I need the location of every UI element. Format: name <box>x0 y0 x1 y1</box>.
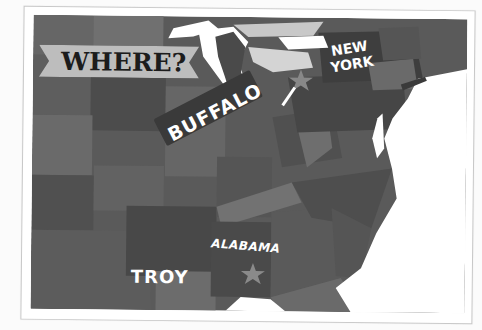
map-card: WHERE? BUFFALO NEW YORK ALABAMA TROY <box>20 6 475 325</box>
map-title: WHERE? <box>61 47 187 77</box>
label-troy: TROY <box>131 266 189 288</box>
map-area: WHERE? BUFFALO NEW YORK ALABAMA TROY <box>30 15 467 314</box>
